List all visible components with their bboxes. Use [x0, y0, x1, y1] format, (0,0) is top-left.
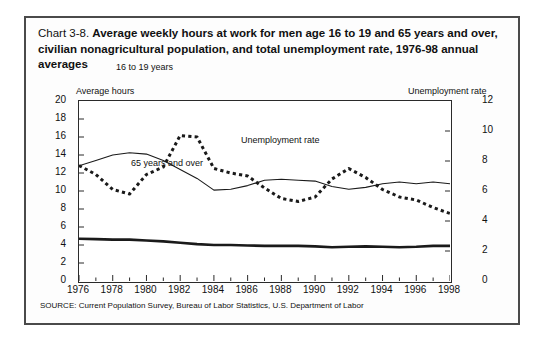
series-label-16-to-19: 16 to 19 years — [116, 62, 173, 72]
source-note: SOURCE: Current Population Survey, Burea… — [40, 301, 364, 310]
left-axis-title: Average hours — [76, 86, 134, 96]
left-ytick-label: 6 — [44, 220, 66, 231]
left-ytick-label: 20 — [44, 94, 66, 105]
left-ytick-label: 0 — [44, 274, 66, 285]
right-ytick-label: 4 — [482, 214, 504, 225]
series-label-unemployment-rate: Unemployment rate — [241, 135, 320, 145]
chart-canvas — [79, 101, 450, 281]
series-label-65-and-over: 65 years and over — [131, 158, 203, 168]
left-ytick-label: 16 — [44, 130, 66, 141]
left-ytick-label: 12 — [44, 166, 66, 177]
right-ytick-label: 0 — [482, 274, 504, 285]
chart-title-text: Average weekly hours at work for men age… — [38, 27, 498, 70]
plot-area — [78, 100, 452, 283]
chart-title-number: Chart 3-8. — [38, 27, 89, 39]
right-ytick-label: 2 — [482, 244, 504, 255]
left-ytick-label: 14 — [44, 148, 66, 159]
left-ytick-label: 10 — [44, 184, 66, 195]
xtick-label: 1998 — [429, 284, 469, 295]
left-ytick-label: 4 — [44, 238, 66, 249]
chart-title: Chart 3-8. Average weekly hours at work … — [38, 26, 504, 73]
right-ytick-label: 10 — [482, 124, 504, 135]
right-ytick-label: 6 — [482, 184, 504, 195]
series-line-unemployment-rate — [79, 136, 450, 214]
series-line-65-years-and-over — [79, 239, 450, 248]
left-ytick-label: 8 — [44, 202, 66, 213]
left-ytick-label: 18 — [44, 112, 66, 123]
right-ytick-label: 12 — [482, 94, 504, 105]
figure-frame: Chart 3-8. Average weekly hours at work … — [24, 16, 520, 325]
right-ytick-label: 8 — [482, 154, 504, 165]
left-ytick-label: 2 — [44, 256, 66, 267]
right-axis-title: Unemployment rate — [408, 86, 487, 96]
